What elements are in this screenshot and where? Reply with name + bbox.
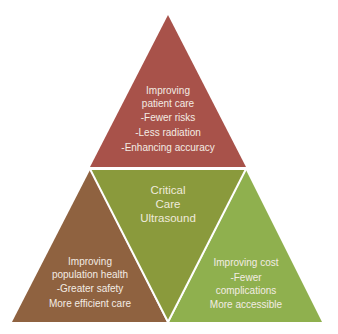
top-heading-line-1: Improving xyxy=(121,85,214,97)
top-item-2: -Less radiation xyxy=(121,125,214,140)
right-item-1: -Fewer xyxy=(210,272,282,284)
left-heading-line-2: population health xyxy=(49,268,131,281)
top-label: Improving patient care -Fewer risks -Les… xyxy=(121,85,214,155)
left-label: Improving population health -Greater saf… xyxy=(49,256,131,311)
center-line-1: Critical xyxy=(140,183,196,197)
top-item-1: -Fewer risks xyxy=(121,110,214,125)
left-item-1: -Greater safety xyxy=(49,281,131,296)
center-label: Critical Care Ultrasound xyxy=(140,183,196,225)
center-line-3: Ultrasound xyxy=(140,211,196,225)
right-item-2: complications xyxy=(210,284,282,297)
center-line-2: Care xyxy=(140,197,196,211)
top-heading-line-2: patient care xyxy=(121,97,214,110)
right-item-3: More accessible xyxy=(210,297,282,312)
top-item-3: -Enhancing accuracy xyxy=(121,140,214,155)
left-item-2: More efficient care xyxy=(49,296,131,311)
right-label: Improving cost -Fewer complications More… xyxy=(210,255,282,312)
left-heading-line-1: Improving xyxy=(49,256,131,268)
right-heading: Improving cost xyxy=(210,255,282,270)
